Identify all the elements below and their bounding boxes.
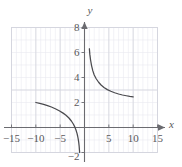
graph-figure: −15−10−551015−22468yx — [0, 0, 182, 167]
y-axis-arrowhead — [81, 22, 87, 29]
x-tick-label: 10 — [128, 133, 139, 144]
y-tick-label: 2 — [74, 97, 80, 108]
x-tick-label: −5 — [54, 133, 66, 144]
x-axis-label: x — [169, 119, 174, 130]
y-tick-label: 4 — [74, 72, 80, 83]
y-tick-label: −2 — [68, 151, 80, 162]
y-axis-label: y — [88, 5, 93, 16]
x-tick-label: 5 — [106, 133, 112, 144]
x-tick-label: 15 — [152, 133, 163, 144]
x-axis-arrowhead — [158, 124, 165, 130]
y-tick-label: 6 — [74, 47, 80, 58]
x-tick-label: −15 — [3, 133, 20, 144]
y-tick-label: 8 — [74, 22, 80, 33]
x-tick-label: −10 — [27, 133, 44, 144]
